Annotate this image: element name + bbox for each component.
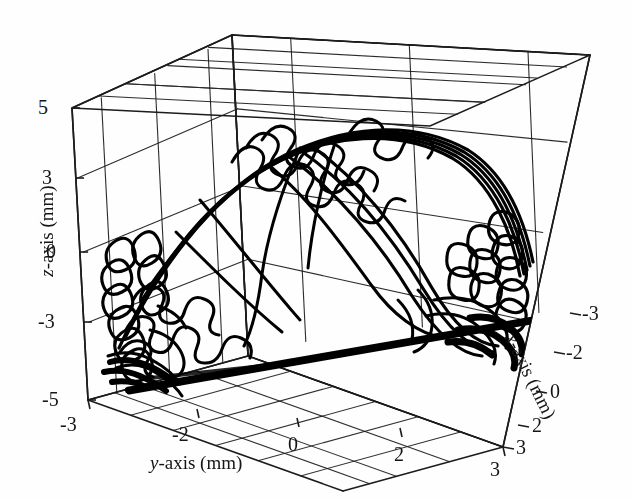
y-tick-label-neg3: -3 bbox=[60, 414, 77, 434]
y-tick-label-3: 3 bbox=[490, 459, 500, 479]
z-tick-label-neg3: -3 bbox=[38, 311, 55, 331]
y-axis-title: y-axis (mm) bbox=[150, 452, 242, 474]
y-axis-title-unit: -axis (mm) bbox=[158, 452, 242, 473]
x-tick-label-3: 3 bbox=[516, 437, 526, 457]
z-axis-title: z-axis (mm) bbox=[36, 156, 58, 306]
x-tick-label-neg2: -2 bbox=[566, 342, 583, 362]
z-tick-label-5: 5 bbox=[38, 97, 48, 117]
x-tick-label-neg3: -3 bbox=[582, 303, 599, 323]
z-tick-label-neg5: -5 bbox=[42, 389, 59, 409]
z-axis-title-symbol: z bbox=[36, 269, 57, 276]
y-tick-label-2: 2 bbox=[394, 444, 404, 464]
y-tick-label-neg2: -2 bbox=[172, 424, 189, 444]
figure-3d-trajectory-plot: 5 3 0 -3 -5 -3 -2 0 2 3 -3 -2 0 2 3 z-ax… bbox=[0, 0, 632, 500]
z-axis-title-unit: -axis (mm) bbox=[36, 185, 57, 269]
y-tick-label-0: 0 bbox=[288, 434, 298, 454]
floor-projection-line bbox=[128, 314, 566, 392]
